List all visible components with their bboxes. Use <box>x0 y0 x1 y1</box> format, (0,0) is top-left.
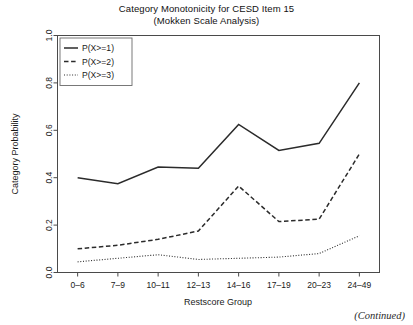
y-axis-tick-label: 0.0 <box>44 266 54 278</box>
y-axis-title: Category Probability <box>10 113 20 195</box>
y-axis-tick-label: 0.2 <box>44 219 54 231</box>
x-axis-tick-label: 0–6 <box>71 280 85 290</box>
y-axis-tick-label: 0.4 <box>44 172 54 184</box>
y-axis: 0.00.20.40.60.81.0 <box>44 29 58 278</box>
series-line-2 <box>78 154 360 249</box>
series-line-3 <box>78 236 360 262</box>
data-series-group <box>78 83 360 262</box>
legend-label-3: P(X>=3) <box>82 70 114 80</box>
x-axis-tick-label: 17–19 <box>267 280 291 290</box>
y-axis-tick-label: 0.8 <box>44 77 54 89</box>
x-axis: 0–67–910–1112–1314–1617–1920–2324–49 <box>58 273 380 290</box>
x-axis-tick-label: 12–13 <box>187 280 211 290</box>
y-axis-tick-label: 1.0 <box>44 29 54 41</box>
legend-label-1: P(X>=1) <box>82 43 114 53</box>
x-axis-tick-label: 7–9 <box>111 280 125 290</box>
y-axis-tick-label: 0.6 <box>44 124 54 136</box>
chart-svg: 0.00.20.40.60.81.0 0–67–910–1112–1314–16… <box>0 0 413 325</box>
x-axis-tick-label: 20–23 <box>307 280 331 290</box>
series-line-1 <box>78 83 360 184</box>
legend-label-2: P(X>=2) <box>82 57 114 67</box>
x-axis-tick-label: 10–11 <box>147 280 170 290</box>
x-axis-tick-label: 24–49 <box>348 280 372 290</box>
figure-container: Category Monotonicity for CESD Item 15 (… <box>0 0 413 325</box>
continued-caption: (Continued) <box>354 310 405 321</box>
x-axis-title: Restscore Group <box>184 297 252 307</box>
chart-legend: P(X>=1)P(X>=2)P(X>=3) <box>60 38 132 86</box>
x-axis-tick-label: 14–16 <box>227 280 251 290</box>
